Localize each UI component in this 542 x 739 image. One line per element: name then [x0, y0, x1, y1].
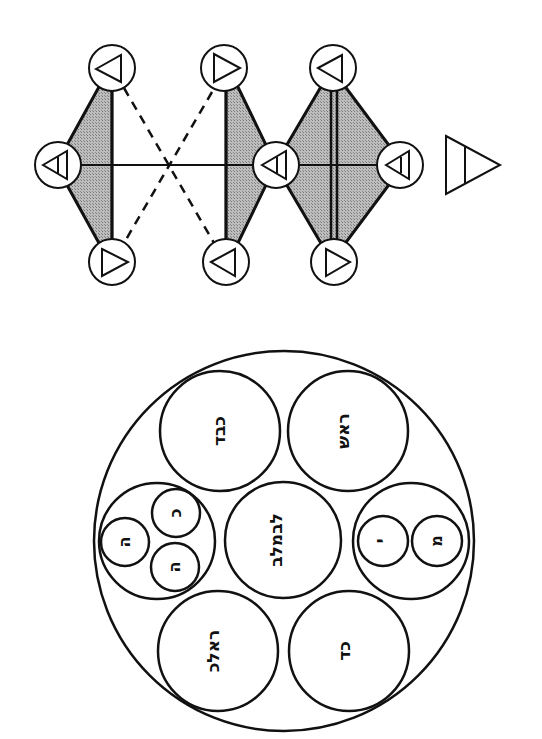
circle-left-group: ה כ ה [99, 483, 215, 599]
edge-dashed-2 [124, 92, 212, 243]
triangle-right-bar-icon [446, 136, 500, 194]
circle-right-group: י מ [353, 483, 469, 599]
node-n9 [311, 239, 357, 285]
label-bottom-left: ראלכ [203, 630, 223, 673]
circle-top-left: כבד [160, 371, 280, 491]
figure-canvas: כבד ראש לבמלב ראלכ כד ה כ ה [0, 0, 542, 739]
label-top-right: ראש [333, 413, 353, 449]
label-center: לבמלב [266, 513, 286, 567]
label-top-left: כבד [209, 416, 229, 446]
node-n2 [35, 142, 81, 188]
node-n6 [203, 239, 249, 285]
triangle-graph [35, 45, 500, 285]
standalone-triangle-symbol [446, 136, 500, 194]
label-left-sub-1: ה [115, 537, 134, 548]
circle-diagram: כבד ראש לבמלב ראלכ כד ה כ ה [94, 351, 474, 731]
label-right-sub-1: י [371, 539, 390, 544]
node-n1 [89, 45, 135, 91]
label-left-sub-3: ה [165, 562, 184, 573]
circle-center: לבמלב [225, 482, 341, 598]
circle-bottom-left: ראלכ [158, 591, 278, 711]
label-left-sub-2: כ [166, 508, 185, 517]
label-bottom-right: כד [334, 641, 354, 661]
circle-top-right: ראש [288, 371, 408, 491]
node-n3 [89, 239, 135, 285]
node-n5 [253, 142, 299, 188]
node-n7 [310, 45, 356, 91]
node-n8 [377, 142, 423, 188]
label-right-sub-2: מ [427, 535, 446, 547]
node-n4 [201, 45, 247, 91]
circle-bottom-right: כד [289, 591, 409, 711]
